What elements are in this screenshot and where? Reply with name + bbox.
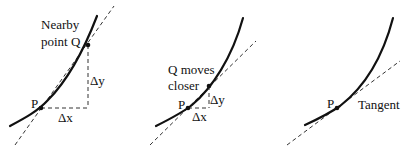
panel-tangent: P Tangent bbox=[287, 18, 400, 145]
panel-secant-far: Nearby point Q P Δy Δx bbox=[10, 6, 114, 145]
point-p bbox=[335, 106, 340, 111]
panel-secant-near: Q moves closer P Δy Δx bbox=[150, 18, 256, 145]
label-q-line1: Q moves bbox=[168, 62, 215, 77]
label-delta-y: Δy bbox=[90, 73, 105, 88]
point-p bbox=[186, 106, 191, 111]
label-q-line2: closer bbox=[168, 78, 200, 93]
label-delta-y: Δy bbox=[210, 92, 225, 107]
point-q bbox=[207, 84, 212, 89]
point-p bbox=[39, 106, 44, 111]
label-delta-x: Δx bbox=[192, 109, 207, 124]
label-delta-x: Δx bbox=[58, 110, 73, 125]
label-p: P bbox=[327, 96, 334, 111]
point-q bbox=[86, 43, 91, 48]
secant-to-tangent-diagram: Nearby point Q P Δy Δx Q moves closer P … bbox=[0, 0, 411, 156]
curve bbox=[10, 16, 97, 126]
label-tangent: Tangent bbox=[358, 97, 400, 112]
label-p: P bbox=[178, 97, 185, 112]
label-p: P bbox=[31, 96, 38, 111]
label-q-line1: Nearby bbox=[41, 17, 80, 32]
label-q-line2: point Q bbox=[41, 34, 81, 49]
